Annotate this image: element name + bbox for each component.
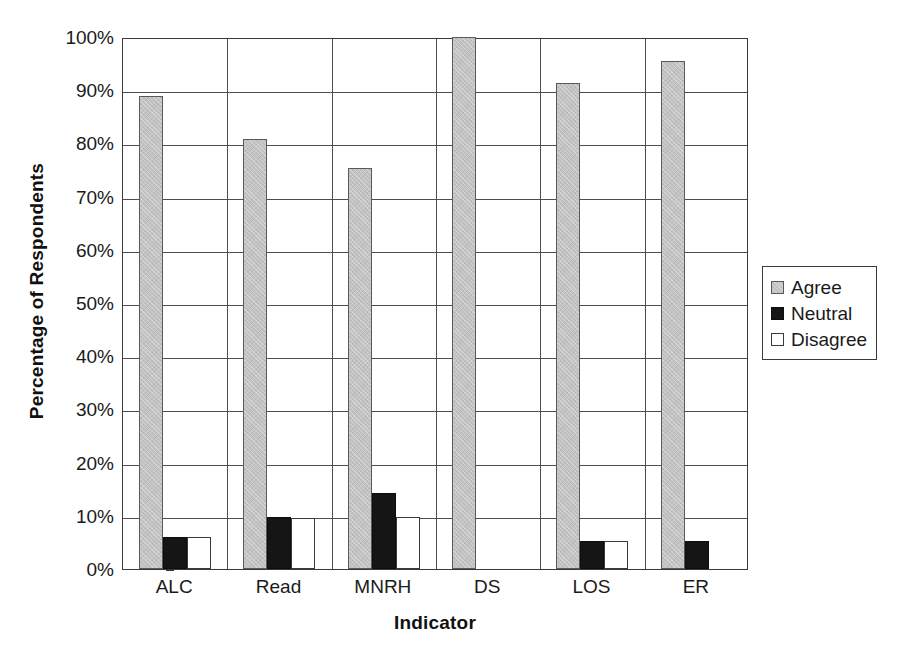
bar-group-ds	[436, 39, 540, 569]
bar-read-neutral	[267, 517, 291, 569]
y-axis-tick-labels: 0%10%20%30%40%50%60%70%80%90%100%	[52, 38, 114, 570]
y-tick-label: 50%	[52, 293, 114, 315]
legend-label: Neutral	[791, 304, 852, 323]
y-tick-mark	[166, 570, 174, 571]
x-tick-label-read: Read	[256, 576, 301, 598]
plot-area	[122, 38, 748, 570]
y-tick-label: 0%	[52, 559, 114, 581]
x-axis-title: Indicator	[122, 612, 748, 634]
legend-label: Agree	[791, 278, 842, 297]
legend-swatch-disagree-icon	[771, 333, 784, 346]
bar-los-disagree	[604, 541, 628, 569]
x-tick-label-mnrh: MNRH	[354, 576, 411, 598]
y-axis-title: Percentage of Respondents	[26, 71, 48, 511]
bar-read-disagree	[291, 518, 315, 569]
x-tick-label-ds: DS	[474, 576, 500, 598]
bar-alc-agree	[139, 96, 163, 569]
bar-los-agree	[556, 83, 580, 569]
bar-group-alc	[123, 39, 227, 569]
y-tick-label: 80%	[52, 133, 114, 155]
bar-mnrh-neutral	[372, 493, 396, 569]
bar-group-los	[540, 39, 644, 569]
bar-ds-agree	[452, 37, 476, 569]
y-tick-label: 30%	[52, 399, 114, 421]
y-tick-label: 10%	[52, 506, 114, 528]
legend-item-neutral: Neutral	[771, 300, 867, 326]
y-tick-label: 40%	[52, 346, 114, 368]
y-tick-label: 90%	[52, 80, 114, 102]
x-tick-label-alc: ALC	[156, 576, 193, 598]
legend-swatch-neutral-icon	[771, 307, 784, 320]
legend-label: Disagree	[791, 330, 867, 349]
chart-legend: AgreeNeutralDisagree	[762, 266, 877, 360]
bar-er-agree	[661, 61, 685, 569]
legend-item-agree: Agree	[771, 274, 867, 300]
bar-er-neutral	[685, 541, 709, 569]
bar-mnrh-disagree	[396, 517, 420, 569]
y-tick-label: 20%	[52, 453, 114, 475]
bar-alc-disagree	[187, 537, 211, 569]
y-tick-label: 70%	[52, 187, 114, 209]
bar-group-er	[645, 39, 749, 569]
x-tick-label-los: LOS	[572, 576, 610, 598]
bar-alc-neutral	[163, 537, 187, 569]
y-tick-label: 100%	[52, 27, 114, 49]
bar-group-read	[227, 39, 331, 569]
bar-mnrh-agree	[348, 168, 372, 569]
y-tick-label: 60%	[52, 240, 114, 262]
bar-los-neutral	[580, 541, 604, 569]
legend-item-disagree: Disagree	[771, 326, 867, 352]
x-tick-label-er: ER	[683, 576, 709, 598]
bar-chart-figure: Percentage of Respondents 0%10%20%30%40%…	[0, 0, 906, 658]
x-axis-tick-labels: ALCReadMNRHDSLOSER	[122, 576, 748, 604]
bar-read-agree	[243, 139, 267, 569]
bar-group-mnrh	[332, 39, 436, 569]
legend-swatch-agree-icon	[771, 281, 784, 294]
